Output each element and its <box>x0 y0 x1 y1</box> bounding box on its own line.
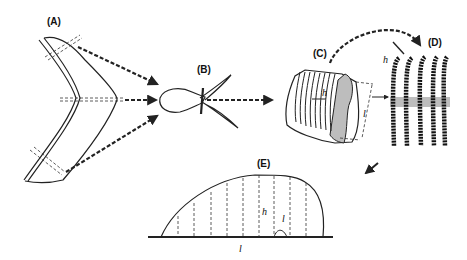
panel-c-label: (C) <box>313 48 327 59</box>
dim-line-top <box>356 82 373 84</box>
pointer-line <box>393 42 404 54</box>
symbol-l-c: l <box>363 108 366 119</box>
symbol-h-e: h <box>262 206 267 217</box>
shaded-cut-face <box>330 74 352 143</box>
panel-d-label: (D) <box>428 37 442 48</box>
symbol-h-c: h <box>322 87 327 98</box>
panel-a: (A) <box>24 16 125 183</box>
cut-mark <box>201 88 203 114</box>
vertical-dashed-lines <box>178 175 306 237</box>
symbol-l-e: l <box>239 243 242 254</box>
bulb-body <box>160 89 205 113</box>
dome-profile <box>161 175 324 237</box>
arrow-c-to-d <box>330 30 420 63</box>
lamellae <box>295 72 335 131</box>
arrow-bottom <box>66 116 157 172</box>
horn-lower <box>202 102 238 128</box>
panel-a-label: (A) <box>47 16 61 27</box>
boomerang-inner-line-1 <box>24 40 76 180</box>
panel-b: (B) <box>160 64 238 128</box>
arrows-a-to-b <box>66 47 157 172</box>
panel-d: (D) h <box>383 37 450 146</box>
panel-e-label: (E) <box>257 158 270 169</box>
arrow-d-to-e <box>366 163 378 173</box>
diagram-figure: (A) (B) (C) <box>0 0 467 260</box>
panel-b-label: (B) <box>197 64 211 75</box>
panel-e: (E) h l l <box>148 158 333 254</box>
symbol-h-d: h <box>383 54 388 65</box>
symbol-l-e-small: l <box>282 213 285 224</box>
